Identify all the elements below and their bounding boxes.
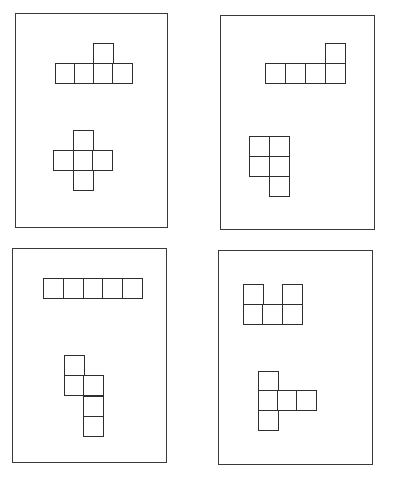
panel-1-frame <box>15 13 168 228</box>
net-square <box>55 63 76 84</box>
net-square <box>285 63 306 84</box>
net-square <box>112 63 133 84</box>
net-square <box>243 304 264 325</box>
net-square <box>83 278 104 299</box>
net-square <box>269 156 290 177</box>
net-square <box>64 375 85 396</box>
net-square <box>282 304 303 325</box>
net-square <box>269 136 290 157</box>
net-square <box>277 390 298 411</box>
net-square <box>305 63 326 84</box>
net-square <box>43 278 64 299</box>
net-square <box>73 130 94 151</box>
net-square <box>258 371 279 392</box>
panel-2-frame <box>220 15 375 230</box>
net-square <box>258 410 279 431</box>
net-square <box>83 416 104 437</box>
net-square <box>63 278 84 299</box>
net-square <box>296 390 317 411</box>
net-square <box>93 43 114 64</box>
net-square <box>325 43 346 64</box>
net-square <box>92 150 113 171</box>
net-square <box>122 278 143 299</box>
net-square <box>93 63 114 84</box>
panel-4-frame <box>218 250 373 465</box>
net-square <box>243 284 264 305</box>
net-square <box>269 176 290 197</box>
net-square <box>73 170 94 191</box>
net-square <box>282 284 303 305</box>
net-square <box>73 150 94 171</box>
net-square <box>249 156 270 177</box>
net-square <box>265 63 286 84</box>
net-square <box>83 375 104 396</box>
net-square <box>102 278 123 299</box>
net-square <box>262 304 283 325</box>
net-square <box>258 390 279 411</box>
net-square <box>249 136 270 157</box>
net-square <box>64 355 85 376</box>
net-square <box>83 396 104 417</box>
net-square <box>74 63 95 84</box>
net-square <box>325 63 346 84</box>
net-square <box>53 150 74 171</box>
